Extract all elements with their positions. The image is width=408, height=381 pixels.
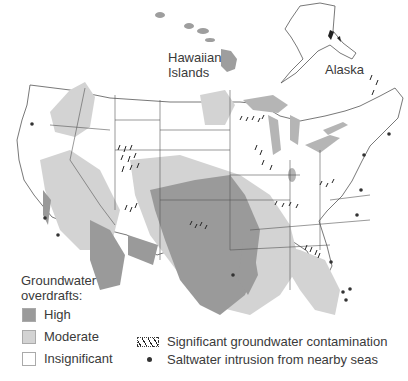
legend-saltwater-label: Saltwater intrusion from nearby seas (167, 352, 378, 367)
legend-high-label: High (44, 307, 71, 322)
insignificant-swatch-icon (22, 352, 36, 366)
legend-title-line1: Groundwater (21, 273, 96, 288)
legend-insignificant: Insignificant (22, 351, 113, 366)
legend-moderate: Moderate (22, 329, 99, 344)
dot-icon (147, 357, 152, 362)
hawaii-label-line1: Hawaiian (168, 50, 221, 65)
legend-saltwater: Saltwater intrusion from nearby seas (137, 352, 378, 367)
legend-title-line2: overdrafts: (21, 288, 96, 303)
label-alaska: Alaska (325, 62, 364, 77)
moderate-swatch-icon (22, 330, 36, 344)
high-swatch-icon (22, 308, 36, 322)
legend-contamination: Significant groundwater contamination (137, 334, 387, 349)
legend-moderate-label: Moderate (44, 329, 99, 344)
hawaii-label-line2: Islands (168, 65, 221, 80)
hatch-pattern-icon (137, 337, 159, 347)
legend-contamination-label: Significant groundwater contamination (167, 334, 387, 349)
legend-high: High (22, 307, 71, 322)
legend-insignificant-label: Insignificant (44, 351, 113, 366)
legend-title: Groundwater overdrafts: (21, 273, 96, 303)
label-hawaiian-islands: Hawaiian Islands (168, 50, 221, 80)
